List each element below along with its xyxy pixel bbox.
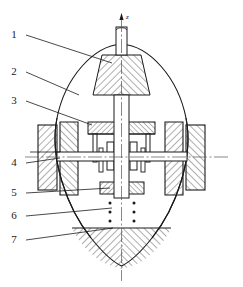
callout-label-3: 3 [11,94,17,106]
callout-label-4: 4 [11,156,17,168]
callout-label-5: 5 [11,186,17,198]
callout-label-6: 6 [11,209,17,221]
callout-leader-1 [26,35,112,63]
left-outer-wheel [38,125,57,190]
callout-label-1: 1 [11,28,17,40]
figure-canvas: z 1 2 3 4 5 6 7 [0,0,243,287]
z-axis-label: z [125,13,129,21]
callout-label-7: 7 [11,233,17,245]
right-outer-wheel [186,125,205,190]
technical-drawing: z 1 2 3 4 5 6 7 [0,0,243,287]
z-axis-arrow [119,13,123,20]
callout-label-2: 2 [11,65,17,77]
lower-hatched-ballast-section [70,226,175,272]
